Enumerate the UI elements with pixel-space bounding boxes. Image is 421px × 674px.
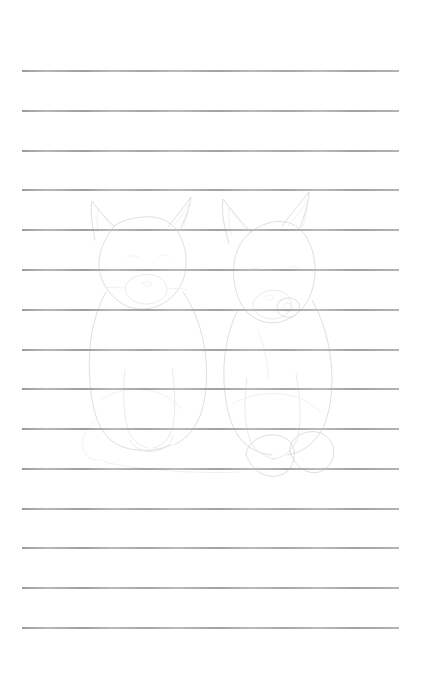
left-cat-tail [83, 420, 102, 460]
ruled-line [22, 110, 399, 112]
left-cat-ear-left [91, 201, 114, 240]
ruled-line-ink-texture [22, 508, 399, 510]
ruled-line-ink-texture [22, 110, 399, 112]
faint-pencil-sketch [0, 0, 421, 674]
right-cat-body-left [224, 310, 272, 455]
left-cat-whisker-2 [169, 288, 187, 290]
ruled-line [22, 229, 399, 231]
left-cat-front-leg-left [124, 370, 148, 448]
left-cat-muzzle [125, 274, 167, 304]
right-cat-chest [258, 330, 268, 378]
left-cat-whisker-1 [106, 287, 124, 288]
right-cat-eye-right [288, 266, 300, 269]
right-cat-head-outline [234, 221, 316, 322]
notebook-page [0, 0, 421, 674]
right-cat-muzzle [253, 290, 291, 319]
right-cat-inner-ear-right [288, 200, 308, 227]
ruled-line-ink-texture [22, 468, 399, 470]
ruled-line-ink-texture [22, 150, 399, 152]
ruled-line-ink-texture [22, 269, 399, 271]
ruled-line-ink-texture [22, 587, 399, 589]
ruled-line-ink-texture [22, 70, 399, 72]
ruled-line [22, 349, 399, 351]
left-cat-eye-left [127, 256, 139, 258]
ruled-line [22, 587, 399, 589]
right-cat-eye [277, 298, 300, 317]
left-cat-paw [130, 436, 173, 452]
left-cat-inner-ear-left [97, 208, 113, 232]
right-cat-nose [266, 295, 274, 300]
ruled-line-ink-texture [22, 388, 399, 390]
right-cat-inner-ear-left [229, 207, 247, 236]
ruled-line-ink-texture [22, 349, 399, 351]
ruled-line [22, 269, 399, 271]
right-cat-eye-pupil [284, 303, 293, 312]
ruled-line [22, 627, 399, 629]
ruled-line [22, 468, 399, 470]
left-cat-haunch [100, 389, 182, 409]
right-cat-body-right [287, 300, 332, 455]
ruled-line-ink-texture [22, 189, 399, 191]
right-cat-eye-left [249, 268, 261, 270]
right-cat-paw-left [246, 435, 294, 476]
sketch-ground-line [104, 462, 240, 473]
left-cat-front-leg-right [153, 368, 175, 448]
ruled-line [22, 70, 399, 72]
ruled-line [22, 189, 399, 191]
right-cat-ear-right [282, 192, 309, 228]
ruled-line-ink-texture [22, 428, 399, 430]
right-cat-front-leg-right [272, 374, 300, 459]
ruled-line-ink-texture [22, 627, 399, 629]
ruled-line [22, 547, 399, 549]
ruled-line-ink-texture [22, 309, 399, 311]
left-cat-head-outline [99, 217, 186, 309]
ruled-line [22, 150, 399, 152]
right-cat-paw-right [290, 432, 334, 473]
ruled-line [22, 508, 399, 510]
ruled-line-ink-texture [22, 229, 399, 231]
right-cat-front-leg-left [245, 378, 276, 459]
left-cat-body-right [174, 292, 207, 445]
right-cat-haunch [232, 393, 321, 413]
left-cat-ear-right [168, 197, 191, 228]
ruled-line-ink-texture [22, 547, 399, 549]
ruled-line [22, 428, 399, 430]
ruled-guide-lines [0, 0, 421, 674]
right-cat-ear-left [222, 199, 251, 243]
ruled-line [22, 309, 399, 311]
left-cat-sketch [83, 197, 207, 460]
right-cat-sketch [222, 192, 333, 476]
left-cat-inner-ear-right [172, 204, 189, 227]
left-cat-body [89, 292, 171, 450]
ruled-line [22, 388, 399, 390]
left-cat-eye-right [158, 255, 169, 257]
left-cat-nose [143, 282, 152, 287]
